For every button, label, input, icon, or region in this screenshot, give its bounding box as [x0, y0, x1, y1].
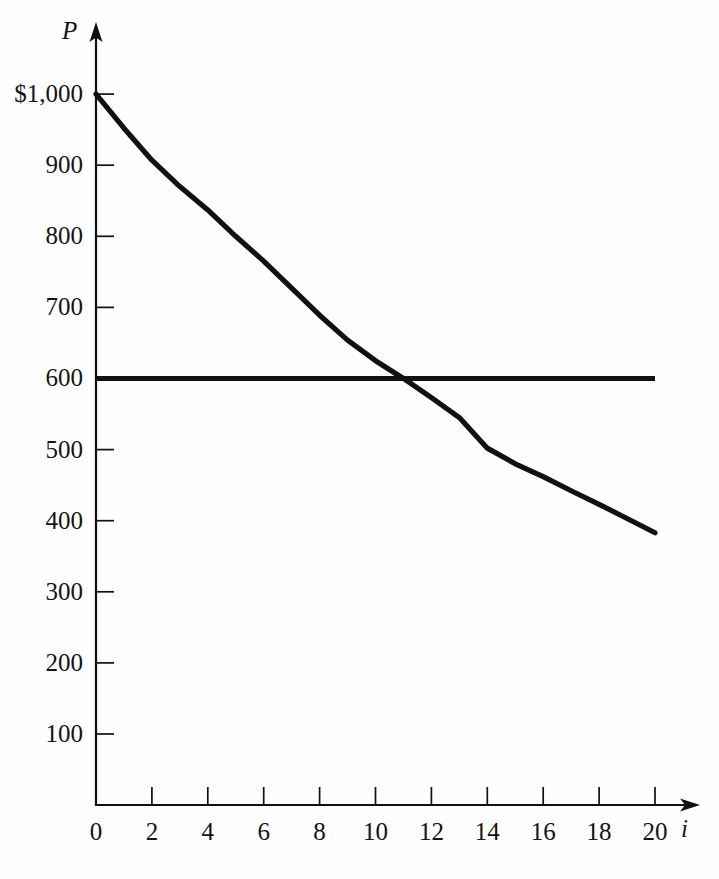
y-tick-label: 600 [46, 365, 84, 390]
x-tick-marks [152, 787, 655, 805]
x-axis [95, 799, 700, 812]
y-tick-label: 200 [46, 650, 84, 675]
y-axis-title: P [62, 17, 77, 45]
series-bond-price-curve [96, 94, 655, 533]
x-tick-label: 14 [462, 819, 512, 844]
y-tick-label: 300 [46, 579, 84, 604]
x-tick-label: 4 [183, 819, 233, 844]
x-tick-label: 18 [574, 819, 624, 844]
x-tick-label: 16 [518, 819, 568, 844]
chart-plot-area [0, 0, 719, 879]
x-tick-label: 8 [295, 819, 345, 844]
x-tick-label: 2 [127, 819, 177, 844]
x-tick-label: 10 [351, 819, 401, 844]
y-tick-label: 500 [46, 437, 84, 462]
x-tick-label: 12 [406, 819, 456, 844]
x-tick-label: 0 [71, 819, 121, 844]
chart-figure: P i 100200300400500600700800900$1,000 02… [0, 0, 719, 879]
y-tick-label: 100 [46, 721, 84, 746]
x-tick-label: 6 [239, 819, 289, 844]
y-tick-label: 900 [46, 152, 84, 177]
y-axis [90, 22, 103, 806]
x-tick-label: 20 [630, 819, 680, 844]
y-tick-label: 400 [46, 508, 84, 533]
y-tick-marks [96, 94, 114, 734]
y-tick-label: $1,000 [14, 81, 83, 106]
y-tick-label: 800 [46, 223, 84, 248]
x-axis-title: i [681, 815, 688, 843]
y-tick-label: 700 [46, 294, 84, 319]
